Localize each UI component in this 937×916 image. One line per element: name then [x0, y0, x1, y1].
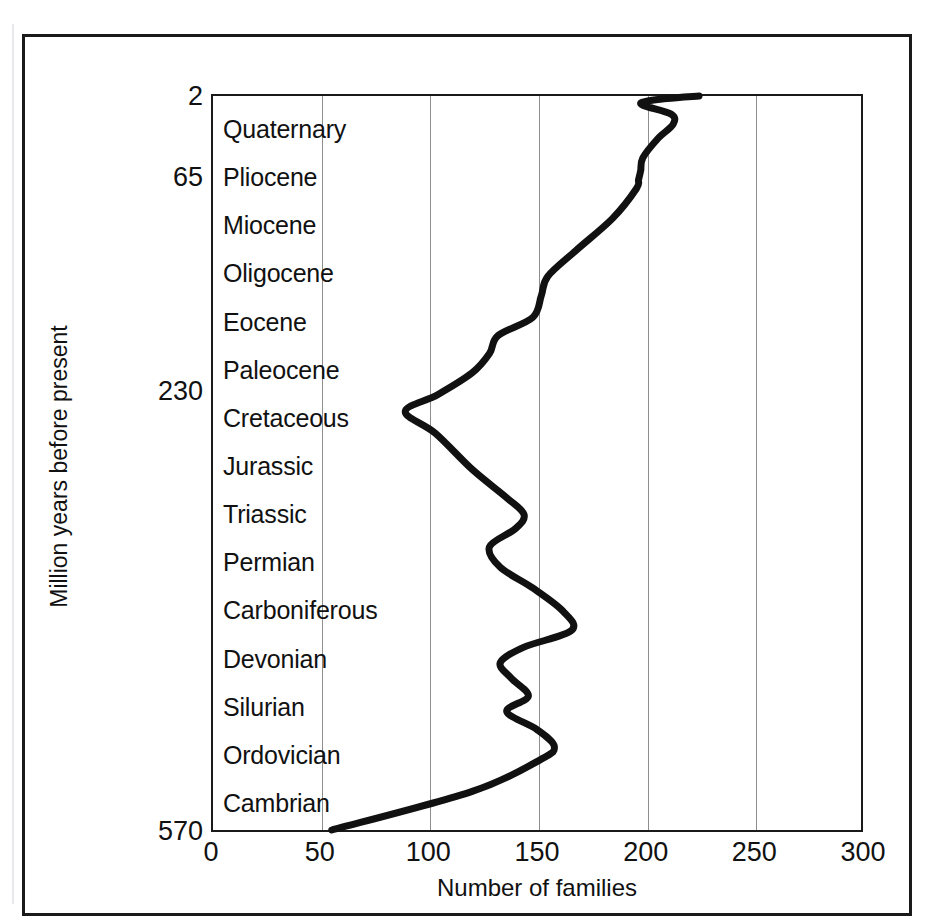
x-tick-250: 250: [694, 837, 814, 867]
y-axis-ticks: 265230570: [111, 94, 203, 832]
x-tick-150: 150: [477, 837, 597, 867]
y-tick-230: 230: [117, 378, 203, 405]
x-axis-title: Number of families: [211, 875, 863, 901]
figure-frame: Million years before present 265230570 Q…: [22, 34, 912, 916]
x-axis-ticks: 050100150200250300: [211, 837, 863, 873]
y-tick-2: 2: [117, 83, 203, 110]
x-tick-200: 200: [586, 837, 706, 867]
y-tick-65: 65: [117, 164, 203, 191]
x-tick-50: 50: [260, 837, 380, 867]
y-axis-title: Million years before present: [48, 252, 71, 682]
x-tick-300: 300: [803, 837, 923, 867]
x-tick-0: 0: [151, 837, 271, 867]
scan-edge-rule: [12, 24, 14, 904]
diversity-curve: [213, 96, 861, 830]
plot-area: QuaternaryPlioceneMioceneOligoceneEocene…: [211, 94, 863, 832]
x-tick-100: 100: [368, 837, 488, 867]
